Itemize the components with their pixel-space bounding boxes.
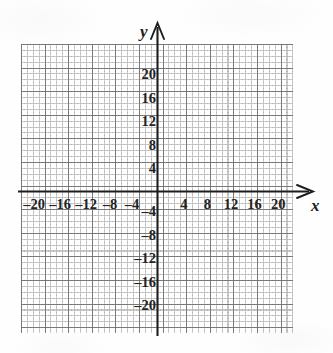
y-tick-label: –4: [142, 203, 157, 220]
y-tick-label: –12: [134, 250, 156, 267]
x-tick-label: –16: [47, 196, 73, 213]
x-tick-label: –12: [73, 196, 99, 213]
x-tick-label: 16: [243, 196, 267, 213]
x-tick-label: 12: [219, 196, 243, 213]
x-axis-label: x: [311, 196, 320, 216]
x-tick-label: 4: [172, 196, 196, 213]
x-tick-label: 20: [266, 196, 290, 213]
x-tick-label: 8: [196, 196, 220, 213]
coordinate-grid-figure: y x –20 –16 –12 –8 –4 4 8 12 16 20 20 16…: [0, 0, 333, 353]
axes: [0, 0, 333, 353]
x-tick-label: –20: [21, 196, 47, 213]
y-tick-label: –20: [134, 297, 156, 314]
y-tick-label: –8: [142, 227, 157, 244]
x-axis-positive-ticks: 4 8 12 16 20: [172, 196, 290, 213]
y-axis-negative-ticks: –4 –8 –12 –16 –20: [108, 0, 156, 353]
y-tick-label: –16: [134, 274, 156, 291]
